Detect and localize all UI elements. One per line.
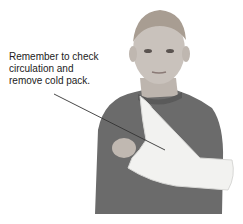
hand bbox=[112, 138, 136, 158]
boy-with-sling-illustration bbox=[0, 0, 243, 224]
left-ear bbox=[129, 46, 137, 62]
right-ear bbox=[182, 46, 190, 62]
caption-line-1: Remember to check bbox=[9, 51, 129, 63]
annotation-caption: Remember to check circulation and remove… bbox=[9, 51, 129, 87]
right-eye bbox=[166, 49, 174, 53]
figure: Remember to check circulation and remove… bbox=[0, 0, 243, 224]
caption-line-2: circulation and bbox=[9, 63, 129, 75]
caption-line-3: remove cold pack. bbox=[9, 75, 129, 87]
left-eye bbox=[144, 49, 152, 53]
